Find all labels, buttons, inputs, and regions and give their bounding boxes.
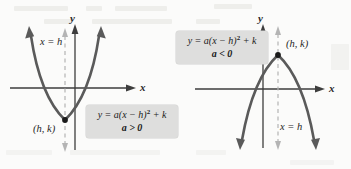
figure-container: x y x = h (h, k) y = a(x − h)2 + k a > 0 [0,0,351,169]
left-parabola-panel: x y x = h (h, k) [0,0,176,169]
left-equation-callout: y = a(x − h)2 + k a > 0 [86,105,178,138]
x-axis [10,85,136,92]
left-equation-prefix: y = a(x − h) [98,109,147,120]
right-condition: a < 0 [183,48,261,60]
left-equation-suffix: + k [150,109,166,120]
x-axis [195,86,325,93]
right-equation-suffix: + k [240,35,256,46]
right-equation: y = a(x − h)2 + k [183,35,261,47]
y-axis-label: y [258,13,263,24]
x-axis-label: x [140,82,146,93]
vertex-point [62,117,68,123]
axis-of-symmetry-label: x = h [280,122,302,133]
axis-of-symmetry-label: x = h [40,37,62,48]
left-equation: y = a(x − h)2 + k [93,109,171,121]
y-axis-label: y [70,13,75,24]
axis-of-symmetry-dashed [62,28,68,152]
right-parabola-panel: x y (h, k) x = h [175,0,351,169]
vertex-label: (h, k) [286,39,308,50]
right-equation-prefix: y = a(x − h) [188,35,237,46]
vertex-label: (h, k) [33,124,55,135]
left-condition: a > 0 [93,122,171,134]
x-axis-label: x [329,83,335,94]
right-equation-callout: y = a(x − h)2 + k a < 0 [176,31,268,64]
y-axis [72,24,79,150]
vertex-point [275,52,281,58]
